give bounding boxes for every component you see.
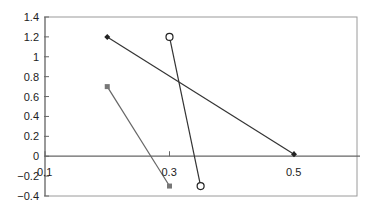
y-tick-label: 1: [9, 51, 39, 63]
y-tick-label: 1.2: [9, 31, 39, 43]
open-circle-marker: [197, 183, 204, 190]
y-tick-label: 0.6: [9, 91, 39, 103]
y-tick-label: 1.4: [9, 11, 39, 23]
square-marker: [167, 184, 172, 189]
x-tick-label: 0.3: [162, 166, 177, 178]
x-tick-label: 0.1: [37, 166, 52, 178]
diamond-marker: [104, 34, 110, 40]
y-tick-label: 0.2: [9, 130, 39, 142]
y-tick-label: −0.2: [9, 170, 39, 182]
series-line: [170, 37, 201, 186]
plot-border: [45, 17, 357, 196]
y-tick-label: −0.4: [9, 190, 39, 202]
open-circle-marker: [166, 33, 173, 40]
y-tick-label: 0.4: [9, 110, 39, 122]
plot-area: [0, 0, 372, 208]
x-tick-label: 0.5: [286, 166, 301, 178]
scatter-chart: 1.41.210.80.60.40.20−0.2−0.4 0.10.30.5: [0, 0, 372, 208]
y-tick-label: 0: [9, 150, 39, 162]
y-tick-label: 0.8: [9, 71, 39, 83]
series-line: [107, 87, 169, 186]
series-line: [107, 37, 294, 154]
square-marker: [105, 84, 110, 89]
